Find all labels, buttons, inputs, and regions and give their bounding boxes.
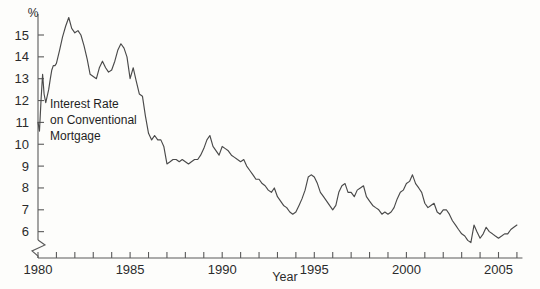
x-axis-tick-label: 1990 <box>208 262 237 277</box>
x-axis-ticks-group <box>38 252 517 258</box>
y-axis-ticks-group <box>38 35 44 232</box>
y-axis-tick-label: 7 <box>22 202 29 217</box>
x-axis-tick-label: 1985 <box>116 262 145 277</box>
y-axis-tick-label: 9 <box>22 159 29 174</box>
x-axis-tick-label: 1980 <box>24 262 53 277</box>
x-axis-tick-label: 2005 <box>484 262 513 277</box>
x-axis-tick-label: 2000 <box>392 262 421 277</box>
y-axis-tick-label: 11 <box>16 115 30 130</box>
axis-lines-group <box>32 14 522 258</box>
y-axis-tick-label: 13 <box>15 71 29 86</box>
interest-rate-series-line <box>38 18 517 243</box>
series-annotation: Interest Rate on Conventional Mortgage <box>50 97 137 143</box>
chart-container: 1514131211109876 19801985199019952000200… <box>0 0 540 289</box>
x-axis-tick-label: 1995 <box>300 262 329 277</box>
annotation-line-1: Interest Rate <box>50 97 119 111</box>
annotation-line-2: on Conventional <box>50 113 137 127</box>
x-axis-tick-labels: 198019851990199520002005 <box>24 262 513 277</box>
y-axis-tick-label: 6 <box>22 224 29 239</box>
mortgage-interest-rate-line-chart: 1514131211109876 19801985199019952000200… <box>0 0 540 289</box>
y-axis-unit-label: % <box>28 6 39 20</box>
y-axis-tick-label: 12 <box>15 93 29 108</box>
y-axis-tick-labels: 1514131211109876 <box>15 28 29 240</box>
x-axis-title: Year <box>272 270 297 284</box>
y-axis-tick-label: 14 <box>15 49 29 64</box>
y-axis-tick-label: 8 <box>22 180 29 195</box>
y-axis-tick-label: 10 <box>15 137 29 152</box>
annotation-line-3: Mortgage <box>50 129 101 143</box>
y-axis-tick-label: 15 <box>15 28 29 43</box>
